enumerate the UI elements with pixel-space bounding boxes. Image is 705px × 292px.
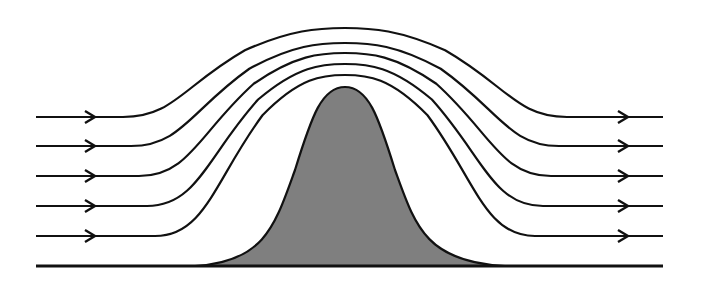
airflow-over-mountain-diagram <box>0 0 705 292</box>
mountain-shape <box>195 87 505 266</box>
